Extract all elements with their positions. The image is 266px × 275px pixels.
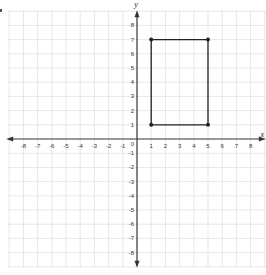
y-tick-label: -1 [129,150,135,156]
y-tick-label: -7 [129,235,135,241]
x-tick-label: 7 [235,143,239,149]
x-tick-label: -6 [49,143,55,149]
x-tick-label: -5 [63,143,69,149]
y-tick-label: -8 [129,250,135,256]
x-tick-label: 5 [206,143,210,149]
y-tick-label: -2 [129,164,135,170]
x-tick-label: -3 [92,143,98,149]
x-tick-label: -4 [78,143,84,149]
y-axis-label: y [133,0,138,9]
x-tick-label: 4 [192,143,196,149]
vertex-point [206,123,210,127]
y-tick-label: -3 [129,179,135,185]
x-tick-label: 8 [249,143,253,149]
y-tick-label: -6 [129,221,135,227]
x-tick-label: 6 [221,143,225,149]
x-tick-label: 3 [178,143,182,149]
x-axis-arrow-left-icon [6,137,13,142]
x-tick-label: -8 [21,143,27,149]
corner-mark [0,9,2,12]
vertex-point [206,38,210,42]
y-tick-label: -5 [129,207,135,213]
coordinate-plane: yx-8-7-6-5-4-3-2-11234567887654321-1-2-3… [0,0,266,275]
origin-label: 0 [131,141,135,147]
x-tick-label: 2 [164,143,168,149]
x-tick-label: -2 [106,143,112,149]
x-axis-label: x [259,130,264,139]
vertex-point [149,38,153,42]
x-tick-label: -7 [35,143,41,149]
x-tick-label: -1 [120,143,126,149]
y-tick-label: -4 [129,193,135,199]
x-tick-label: 1 [150,143,154,149]
vertex-point [149,123,153,127]
